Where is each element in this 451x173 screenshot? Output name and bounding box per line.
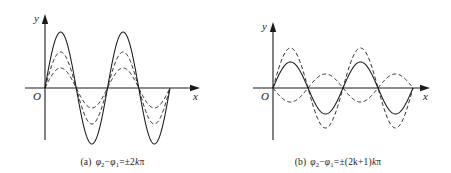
caption-a: (a)φ2−φ1=±2kπ: [0, 157, 225, 167]
y-axis-arrow-icon: [42, 14, 48, 24]
caption-a-tag: (a): [80, 157, 91, 167]
caption-b-sub1: 1: [330, 161, 334, 168]
y-axis-arrow-icon: [270, 22, 276, 32]
caption-a-sub2: 2: [101, 161, 105, 168]
origin-label: O: [261, 90, 269, 102]
caption-b-rhs: ±(2k+1): [339, 157, 372, 167]
caption-b-pi: π: [376, 157, 381, 167]
caption-a-phi1: φ: [110, 157, 115, 167]
caption-a-rhs: ±2: [125, 157, 135, 167]
caption-b-sub2: 2: [316, 161, 320, 168]
x-axis-label: x: [192, 90, 198, 102]
caption-b-phi2: φ: [310, 157, 315, 167]
caption-a-pi: π: [140, 157, 145, 167]
figure-container: yxO (a)φ2−φ1=±2kπ yxO (b)φ2−φ1=±(2k+1)kπ: [0, 0, 451, 173]
caption-b-tag: (b): [295, 157, 307, 167]
x-axis-label: x: [422, 90, 428, 102]
y-axis-label: y: [261, 20, 267, 32]
plot-a: yxO: [0, 0, 225, 150]
caption-b: (b)φ2−φ1=±(2k+1)kπ: [225, 157, 451, 167]
caption-a-sub1: 1: [116, 161, 120, 168]
panel-a: yxO (a)φ2−φ1=±2kπ: [0, 0, 225, 173]
y-axis-label: y: [33, 12, 39, 24]
plot-b: yxO: [225, 0, 451, 150]
panel-b: yxO (b)φ2−φ1=±(2k+1)kπ: [225, 0, 451, 173]
origin-label: O: [33, 90, 41, 102]
